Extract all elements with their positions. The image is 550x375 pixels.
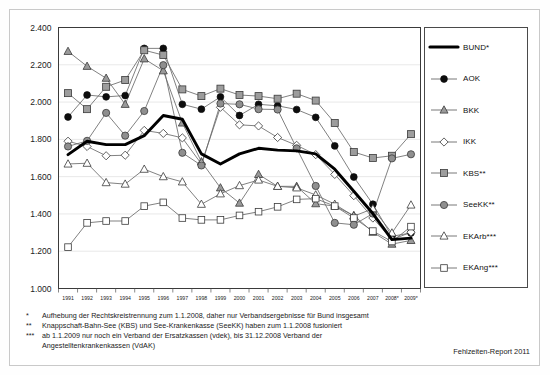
data-point <box>350 221 357 228</box>
x-tick-label: 2002 <box>272 295 284 301</box>
data-point <box>122 132 129 139</box>
footnote-text-continued: Angestelltenkrankenkassen (VdAK) <box>42 341 446 350</box>
legend-marker-square-gray-icon <box>425 160 463 186</box>
footnote-text: Knappschaft-Bahn-See (KBS) und See-Krank… <box>42 321 446 330</box>
footnote-marker: * <box>26 311 42 320</box>
legend-label: IKK <box>463 137 476 146</box>
legend-item-BUND[interactable]: BUND* <box>425 34 529 60</box>
data-point <box>65 114 72 121</box>
chart-legend: BUND*AOKBKKIKKKBS**SeeKK**EKArb***EKAng*… <box>424 27 528 288</box>
x-tick-label: 1996 <box>158 295 170 301</box>
data-point <box>236 212 243 219</box>
data-point <box>217 93 224 100</box>
y-tick-label: 1.200 <box>30 246 52 256</box>
data-point <box>331 142 338 149</box>
data-point <box>407 131 414 138</box>
footnote-2: **Knappschaft-Bahn-See (KBS) und See-Kra… <box>26 321 446 330</box>
data-point <box>198 162 205 169</box>
data-point <box>141 107 148 114</box>
x-tick-label: 2003 <box>291 295 303 301</box>
data-point <box>179 149 186 156</box>
data-point <box>441 264 448 271</box>
x-tick-label: 1997 <box>177 295 189 301</box>
plot-area <box>59 28 421 289</box>
data-point <box>64 143 71 150</box>
data-point <box>255 208 262 215</box>
data-point <box>122 218 129 225</box>
legend-item-BKK[interactable]: BKK <box>425 97 529 123</box>
data-point <box>236 91 243 98</box>
x-tick-label: 2000 <box>234 295 246 301</box>
x-tick-label: 2009* <box>404 295 418 301</box>
footnote-text: Aufhebung der Rechtskreistrennung zum 1.… <box>42 311 446 320</box>
footnote-3: ***ab 1.1.2009 nur noch ein Verband der … <box>26 331 446 340</box>
footnotes-block: *Aufhebung der Rechtskreistrennung zum 1… <box>26 311 446 350</box>
x-tick-label: 1995 <box>138 295 150 301</box>
legend-label: SeeKK** <box>463 200 495 209</box>
data-point <box>179 86 186 93</box>
y-tick-label: 1.400 <box>30 209 52 219</box>
data-point <box>441 170 448 177</box>
data-point <box>440 232 448 239</box>
x-tick-label: 2005 <box>329 295 341 301</box>
data-point <box>103 109 110 116</box>
legend-item-EKAng[interactable]: EKAng*** <box>425 255 529 281</box>
x-tick-label: 1998 <box>196 295 208 301</box>
data-point <box>350 149 357 156</box>
x-tick-label: 2004 <box>310 295 322 301</box>
legend-item-IKK[interactable]: IKK <box>425 129 529 155</box>
legend-marker-triangle-gray-icon <box>425 97 463 123</box>
footnote-1: *Aufhebung der Rechtskreistrennung zum 1… <box>26 311 446 320</box>
data-point <box>217 100 224 107</box>
legend-marker-diamond-white-icon <box>425 129 463 155</box>
y-tick-label: 1.600 <box>30 172 52 182</box>
data-point <box>179 101 186 108</box>
footnote-marker: ** <box>26 321 42 330</box>
data-point <box>198 93 205 100</box>
data-point <box>351 215 358 222</box>
x-tick-label: 1999 <box>215 295 227 301</box>
data-point <box>293 196 300 203</box>
data-point <box>160 199 167 206</box>
legend-item-KBS[interactable]: KBS** <box>425 160 529 186</box>
data-point <box>122 77 129 84</box>
data-point <box>141 47 148 54</box>
data-point <box>370 228 377 235</box>
legend-marker-circle-black-icon <box>425 66 463 92</box>
data-point <box>312 182 319 189</box>
y-tick-label: 1.800 <box>30 134 52 144</box>
y-tick-label: 2.400 <box>30 23 52 33</box>
source-note: Fehlzeiten-Report 2011 <box>453 347 530 356</box>
x-tick-label: 1991 <box>62 295 74 301</box>
data-point <box>103 93 110 100</box>
data-point <box>198 217 205 224</box>
data-point <box>312 114 319 121</box>
data-point <box>217 85 224 92</box>
legend-marker-line-icon <box>425 34 463 60</box>
x-tick-label: 2006 <box>348 295 360 301</box>
x-tick-label: 2007 <box>367 295 379 301</box>
chart-page: 1.0001.2001.4001.6001.8002.0002.2002.400… <box>0 0 550 375</box>
data-point <box>236 101 243 108</box>
legend-item-EKArb[interactable]: EKArb*** <box>425 223 529 249</box>
legend-item-SeeKK[interactable]: SeeKK** <box>425 192 529 218</box>
data-point <box>274 106 281 113</box>
data-point <box>407 151 414 158</box>
data-point <box>236 112 243 119</box>
data-point <box>65 90 72 97</box>
data-point <box>331 219 338 226</box>
data-point <box>408 223 415 230</box>
legend-label: KBS** <box>463 169 486 178</box>
footnote-text: ab 1.1.2009 nur noch ein Verband der Ers… <box>42 331 446 340</box>
data-point <box>84 92 91 99</box>
x-tick-label: 1993 <box>100 295 112 301</box>
data-point <box>84 220 91 227</box>
data-point <box>103 218 110 225</box>
legend-label: EKArb*** <box>463 232 496 241</box>
legend-item-AOK[interactable]: AOK <box>425 66 529 92</box>
data-point <box>160 45 167 52</box>
data-point <box>369 155 376 162</box>
legend-marker-square-white-icon <box>425 255 463 281</box>
y-tick-label: 1.000 <box>30 284 52 294</box>
data-point <box>160 62 167 69</box>
